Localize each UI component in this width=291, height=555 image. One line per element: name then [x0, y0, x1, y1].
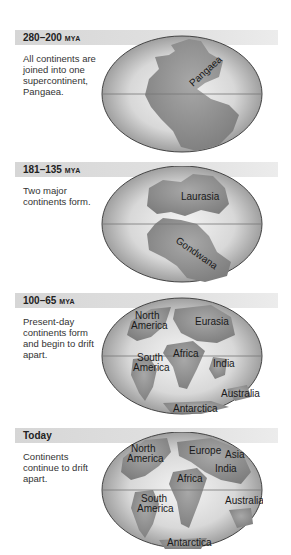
period-label: 100–65 MYA [23, 294, 75, 308]
period-label: Today [23, 429, 52, 442]
globe-pangaea: Pangaea [101, 35, 263, 153]
label-australia: Australia [225, 495, 263, 506]
label-asia: Asia [225, 449, 245, 460]
period-label: 280–200 MYA [23, 31, 81, 45]
label-africa: Africa [173, 348, 199, 359]
label-south-america-line2: America [137, 503, 174, 514]
globe-laurasia-gondwana: Laurasia Gondwana [101, 166, 263, 284]
label-north-america-line2: America [127, 453, 164, 464]
period-description: All continents are joined into one super… [23, 53, 98, 97]
period-label: 181–135 MYA [23, 163, 81, 177]
label-eurasia: Eurasia [195, 316, 229, 327]
label-europe: Europe [189, 445, 222, 456]
period-description: Present-day continents form and begin to… [23, 316, 98, 360]
globe-today: North America Europe Asia India Africa S… [101, 432, 263, 550]
label-laurasia: Laurasia [181, 191, 220, 202]
label-africa: Africa [177, 473, 203, 484]
label-india: India [215, 463, 237, 474]
period-description: Continents continue to drift apart. [23, 451, 98, 484]
label-north-america-line2: America [131, 320, 168, 331]
label-south-america-line2: America [133, 362, 170, 373]
period-description: Two major continents form. [23, 185, 98, 207]
label-antarctica: Antarctica [173, 403, 218, 414]
label-antarctica: Antarctica [167, 537, 212, 548]
label-australia: Australia [221, 388, 260, 399]
globe-present-day-forming: North North America America Eurasia Afri… [101, 297, 263, 415]
label-india: India [213, 358, 235, 369]
